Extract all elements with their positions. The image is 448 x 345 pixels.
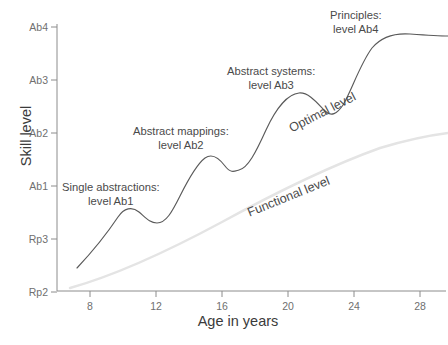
ytick-label-ab4: Ab4 [4, 21, 48, 33]
ytick-label-rp3: Rp3 [4, 233, 48, 245]
annotation-abstract-systems: Abstract systems: level Ab3 [227, 65, 315, 92]
skill-level-chart: Ab4 Ab3 Ab2 Ab1 Rp3 Rp2 8 12 16 20 24 28… [0, 0, 448, 345]
y-tick-marks [51, 27, 57, 292]
xtick-label-8: 8 [70, 300, 110, 312]
y-axis-title: Skill level [18, 81, 34, 191]
annotation-single-abstractions-line1: Single abstractions: [62, 181, 160, 195]
annotation-single-abstractions: Single abstractions: level Ab1 [62, 181, 160, 208]
x-axis-title: Age in years [158, 313, 318, 329]
x-tick-marks [90, 291, 420, 297]
annotation-single-abstractions-line2: level Ab1 [62, 195, 160, 209]
annotation-abstract-systems-line2: level Ab3 [227, 79, 315, 93]
xtick-label-16: 16 [202, 300, 242, 312]
xtick-label-12: 12 [136, 300, 176, 312]
annotation-principles-line2: level Ab4 [330, 23, 382, 37]
annotation-principles: Principles: level Ab4 [330, 9, 382, 36]
xtick-label-24: 24 [334, 300, 374, 312]
annotation-abstract-mappings-line1: Abstract mappings: [133, 125, 229, 139]
annotation-abstract-systems-line1: Abstract systems: [227, 65, 315, 79]
annotation-abstract-mappings-line2: level Ab2 [133, 139, 229, 153]
annotation-principles-line1: Principles: [330, 9, 382, 23]
annotation-abstract-mappings: Abstract mappings: level Ab2 [133, 125, 229, 152]
xtick-label-20: 20 [268, 300, 308, 312]
plot-area [0, 0, 448, 345]
ytick-label-rp2: Rp2 [4, 286, 48, 298]
xtick-label-28: 28 [400, 300, 440, 312]
